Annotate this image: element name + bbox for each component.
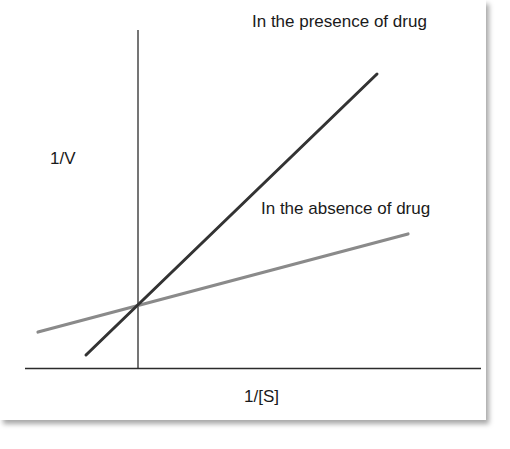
presence-of-drug-label: In the presence of drug xyxy=(252,12,427,32)
absence-of-drug-label: In the absence of drug xyxy=(261,199,430,219)
absence-of-drug-line xyxy=(38,234,408,332)
plot-area xyxy=(0,0,510,449)
x-axis-label: 1/[S] xyxy=(244,387,279,407)
y-axis-label: 1/V xyxy=(50,149,76,169)
figure-card: In the presence of drug In the absence o… xyxy=(0,0,486,420)
